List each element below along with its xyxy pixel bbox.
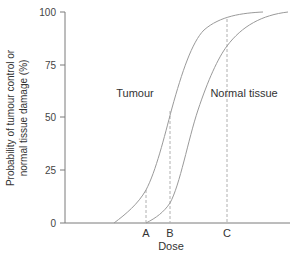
tumour-label: Tumour — [116, 87, 154, 99]
ytick-75: 75 — [45, 60, 57, 71]
y-ticks — [60, 12, 65, 223]
ytick-0: 0 — [50, 218, 56, 229]
normal-tissue-label: Normal tissue — [210, 87, 277, 99]
ytick-100: 100 — [39, 7, 56, 18]
ytick-25: 25 — [45, 165, 57, 176]
tumour-curve — [114, 12, 263, 223]
dose-response-chart: 100 75 50 25 0 Probability of tumour con… — [0, 0, 294, 256]
y-axis-label-line1: Probability of tumour control or — [5, 49, 16, 186]
normal-tissue-curve — [146, 12, 288, 223]
marker-label-b: B — [166, 227, 173, 239]
ytick-50: 50 — [45, 112, 57, 123]
y-axis-label-line2: normal tissue damage (%) — [18, 60, 29, 177]
marker-label-a: A — [142, 227, 150, 239]
dose-markers — [146, 19, 227, 223]
marker-label-c: C — [223, 227, 231, 239]
x-axis-label: Dose — [158, 240, 184, 252]
